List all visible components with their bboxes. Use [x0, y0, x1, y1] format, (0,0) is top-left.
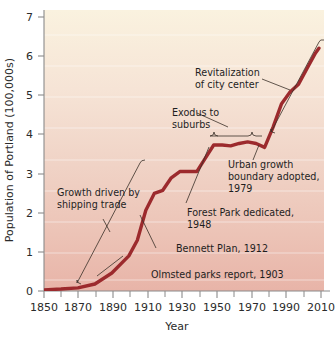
x-tick-label-1890: 1890: [99, 301, 127, 314]
x-tick-label-1950: 1950: [203, 301, 231, 314]
annot-forest-line2: 1948: [187, 219, 211, 230]
x-axis-title: Year: [164, 320, 189, 333]
y-tick-label-0: 0: [26, 285, 33, 298]
y-tick-label-7: 7: [26, 11, 33, 24]
annotation-bennett-plan: Bennett Plan, 1912: [176, 243, 268, 254]
y-tick-label-6: 6: [26, 50, 33, 63]
y-axis-title: Population of Portland (100,000s): [3, 58, 16, 242]
annot-bennett-line1: Bennett Plan, 1912: [176, 243, 268, 254]
annot-ugb-line2: boundary adopted,: [228, 171, 320, 182]
x-tick-label-1910: 1910: [134, 301, 162, 314]
x-tick-label-1850: 1850: [30, 301, 58, 314]
y-axis-tick-labels: 7 6 5 4 3 2 1 0: [26, 11, 33, 298]
annot-ugb-line1: Urban growth: [228, 159, 293, 170]
annot-ugb-line3: 1979: [228, 183, 252, 194]
annot-forest-line1: Forest Park dedicated,: [187, 207, 294, 218]
x-tick-label-1930: 1930: [168, 301, 196, 314]
y-tick-label-4: 4: [26, 128, 33, 141]
y-tick-label-3: 3: [26, 168, 33, 181]
annot-exodus-line2: suburbs: [172, 119, 210, 130]
annot-exodus-line1: Exodus to: [172, 107, 219, 118]
y-tick-label-5: 5: [26, 89, 33, 102]
annot-shipping-line1: Growth driven by: [57, 187, 140, 198]
chart-svg: 7 6 5 4 3 2 1 0: [0, 0, 335, 337]
annot-olmsted-line1: Olmsted parks report, 1903: [151, 269, 284, 280]
x-axis-ticks-major: [44, 291, 321, 298]
annot-revitalization-line2: of city center: [195, 79, 259, 90]
annot-revitalization-line1: Revitalization: [195, 67, 260, 78]
y-axis-ticks: [38, 17, 44, 291]
x-tick-label-1990: 1990: [272, 301, 300, 314]
x-tick-label-2010: 2010: [307, 301, 335, 314]
x-axis-tick-labels: 1850 1870 1890 1910 1930 1950 1970 1990 …: [30, 301, 335, 314]
x-tick-label-1870: 1870: [64, 301, 92, 314]
x-tick-label-1970: 1970: [238, 301, 266, 314]
population-chart: 7 6 5 4 3 2 1 0: [0, 0, 335, 337]
y-tick-label-1: 1: [26, 246, 33, 259]
annotation-olmsted: Olmsted parks report, 1903: [151, 269, 284, 280]
annot-shipping-line2: shipping trade: [57, 199, 126, 210]
y-tick-label-2: 2: [26, 207, 33, 220]
annotation-revitalization: Revitalization of city center: [195, 67, 260, 90]
